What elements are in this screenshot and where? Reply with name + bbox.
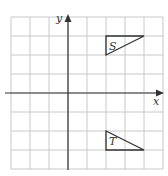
x-axis-label: x: [153, 95, 160, 108]
y-axis-arrow-icon: [65, 14, 72, 22]
triangle-label: S: [109, 40, 117, 53]
coordinate-plane: x y ST: [0, 0, 168, 176]
y-axis-label: y: [55, 12, 63, 25]
